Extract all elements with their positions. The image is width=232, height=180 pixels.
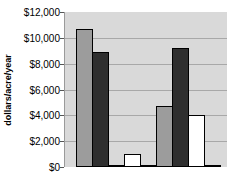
y-tick-label: $0: [49, 162, 60, 173]
bar-2: [92, 52, 109, 167]
y-axis-label: dollars/acre/year: [0, 12, 16, 167]
bar-9: [204, 165, 221, 167]
bar-5: [140, 165, 157, 167]
bar-1: [76, 29, 93, 167]
plot-area: [64, 12, 227, 167]
y-axis-label-text: dollars/acre/year: [3, 54, 13, 126]
y-tick-label: $8,000: [29, 58, 60, 69]
bar-3: [108, 165, 125, 167]
y-tick-label: $4,000: [29, 110, 60, 121]
y-tick-label: $6,000: [29, 84, 60, 95]
y-tick-label: $10,000: [24, 32, 60, 43]
bar-6: [156, 106, 173, 167]
y-tick-label: $12,000: [24, 7, 60, 18]
bar-8: [188, 115, 205, 167]
y-tick-mark: [60, 167, 64, 168]
bar-4: [124, 154, 141, 167]
y-tick-label: $2,000: [29, 136, 60, 147]
bar-7: [172, 48, 189, 167]
